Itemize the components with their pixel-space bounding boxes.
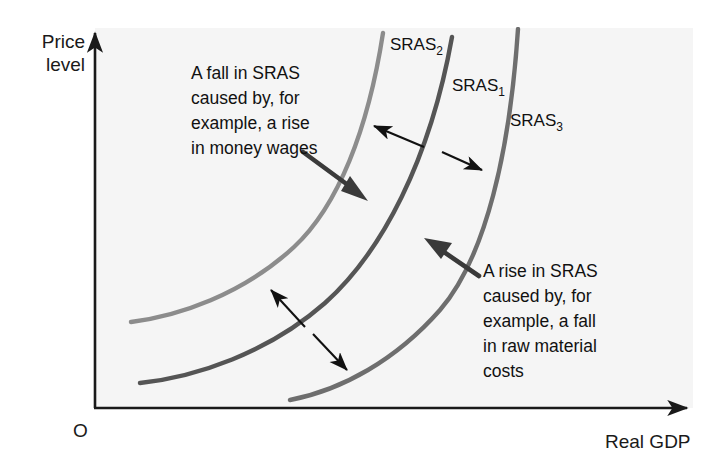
rise-annotation-line-5: costs	[483, 361, 524, 381]
curve-label-sras1-base: SRAS	[452, 76, 498, 95]
curve-label-sras2-base: SRAS	[390, 35, 436, 54]
curve-label-sras1-subscript: 1	[498, 85, 505, 99]
fall-annotation-line-4: in money wages	[191, 138, 318, 158]
curve-label-sras3-subscript: 3	[556, 120, 563, 134]
y-axis-label-line1: Price	[42, 31, 85, 52]
rise-annotation-line-2: caused by, for	[483, 286, 592, 306]
curve-label-sras2-subscript: 2	[436, 44, 443, 58]
origin-label: O	[73, 420, 88, 441]
sras-shift-diagram: Price level Real GDP O SRAS2 SRAS1 SRAS3…	[0, 0, 725, 462]
fall-annotation-line-1: A fall in SRAS	[191, 63, 300, 83]
fall-annotation-line-3: example, a rise	[191, 113, 310, 133]
y-axis-label-line2: level	[46, 54, 85, 75]
diagram-canvas: Price level Real GDP O SRAS2 SRAS1 SRAS3…	[0, 0, 725, 462]
fall-annotation-line-2: caused by, for	[191, 88, 300, 108]
rise-annotation-line-4: in raw material	[483, 336, 597, 356]
curve-label-sras3-base: SRAS	[510, 111, 556, 130]
rise-annotation-line-1: A rise in SRAS	[483, 261, 598, 281]
rise-annotation-line-3: example, a fall	[483, 311, 596, 331]
x-axis-label: Real GDP	[605, 431, 691, 452]
